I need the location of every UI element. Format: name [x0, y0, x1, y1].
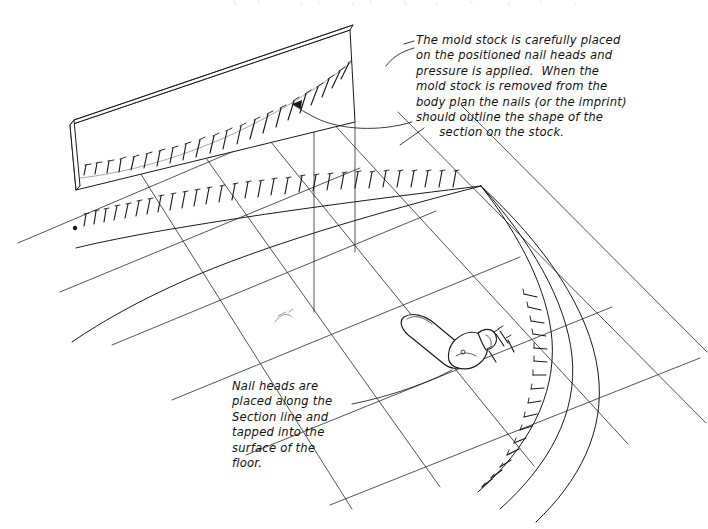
scan-artifact [0, 0, 708, 8]
annotation-mold-stock-note: The mold stock is carefully placed on th… [416, 33, 627, 141]
claw-hammer [401, 315, 496, 369]
mold-stock-board [70, 25, 355, 190]
floor-grid-mark [275, 309, 293, 322]
section-line-endpoint-dot [73, 226, 77, 230]
nail-line-on-floor [73, 170, 459, 230]
annotation-nail-heads-note: Nail heads are placed along the Section … [232, 379, 332, 471]
nail-line-on-section-curve [482, 289, 547, 487]
illustration-sheet: .ln { fill:none; stroke:#1a1a1a; stroke-… [0, 0, 708, 529]
body-plan-section-curves [72, 186, 599, 522]
